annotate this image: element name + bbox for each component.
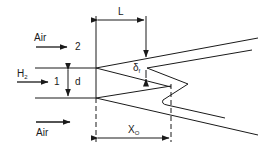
diameter-label: d [75,77,81,87]
cone-lower-line [96,86,171,98]
liftoff-label: XO [128,125,139,136]
air-bottom-label: Air [36,128,48,138]
flame-front-zigzag [147,68,225,118]
delta-sub: f [139,68,141,74]
stream-1-label: 1 [54,77,60,87]
liftoff-main: X [128,124,135,135]
stream-2-label: 2 [75,42,81,52]
inner-upper-line [147,50,252,68]
h2-label: H2 [17,69,28,80]
outer-lower-line [96,98,258,135]
air-top-label: Air [34,33,46,43]
liftoff-sub: O [135,130,140,136]
jet-flame-diagram: Air 2 H2 1 d Air L δf XO [0,0,268,168]
h2-sub: 2 [24,74,27,80]
flame-thickness-label: δf [133,63,140,74]
diagram-lines [0,0,268,168]
length-label: L [118,7,124,17]
